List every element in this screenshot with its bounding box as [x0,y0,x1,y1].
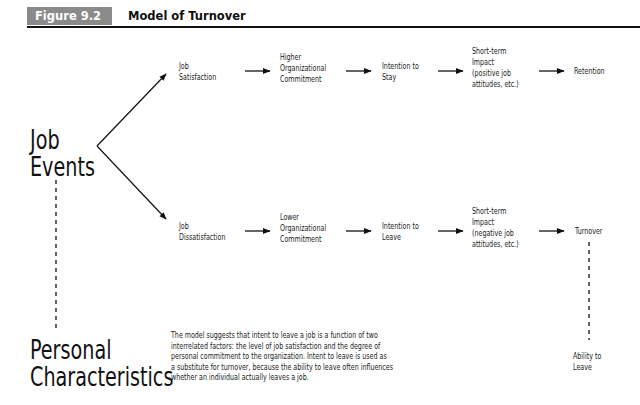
job-events-label: Job Events [30,127,95,181]
node-job-satisfaction: Job Satisfaction [179,61,216,83]
node-lower-organizational-commitment: Lower Organizational Commitment [280,212,326,245]
node-short-term-impact-negative: Short-term Impact (negative job attitude… [472,206,519,250]
node-higher-organizational-commitment: Higher Organizational Commitment [280,52,326,85]
node-ability-to-leave: Ability to Leave [573,351,601,373]
node-turnover: Turnover [575,226,602,237]
branch-arrows [97,74,166,219]
explanatory-note: The model suggests that intent to leave … [171,330,393,383]
personal-characteristics-label: Personal Characteristics [30,337,173,391]
node-intention-to-stay: Intention to Stay [382,61,419,83]
node-retention: Retention [574,66,605,77]
node-job-dissatisfaction: Job Dissatisfaction [179,221,225,243]
node-intention-to-leave: Intention to Leave [382,221,419,243]
node-short-term-impact-positive: Short-term Impact (positive job attitude… [472,46,519,90]
